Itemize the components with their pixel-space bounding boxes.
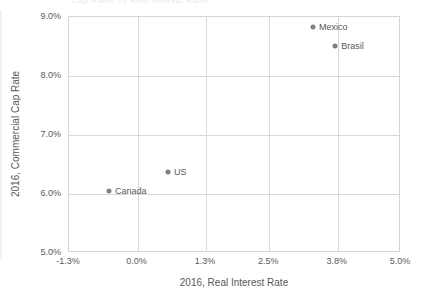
plot-area: MexicoBrasilUSCanada (68, 16, 400, 252)
scatter-chart: Cap Rates vs Real Interest Rates 2016, C… (0, 0, 427, 299)
x-tick-label: 2.5% (258, 256, 279, 267)
y-tick-label: 8.0% (40, 70, 61, 80)
x-tick-label: 1.3% (195, 256, 216, 267)
data-point-label-mexico: Mexico (319, 22, 348, 33)
y-tick-label: 6.0% (40, 188, 61, 198)
x-tick-label: 0.0% (126, 256, 147, 267)
gridline-vertical (138, 17, 139, 251)
data-point-us[interactable] (166, 170, 171, 175)
clipped-chart-title: Cap Rates vs Real Interest Rates (72, 0, 282, 5)
gridline-vertical (206, 17, 207, 251)
x-tick-label: -1.3% (56, 256, 80, 267)
x-tick-label: 5.0% (390, 256, 411, 267)
left-edge-artifact (0, 10, 2, 260)
y-axis-title: 2016, Commercial Cap Rate (9, 16, 23, 252)
x-axis-title: 2016, Real Interest Rate (68, 277, 400, 289)
data-point-label-brasil: Brasil (341, 40, 364, 51)
gridline-horizontal (69, 76, 399, 77)
data-point-canada[interactable] (107, 189, 112, 194)
gridline-horizontal (69, 135, 399, 136)
x-tick-label: 3.8% (326, 256, 347, 267)
data-point-label-canada: Canada (115, 186, 147, 197)
data-point-brasil[interactable] (333, 43, 338, 48)
gridline-vertical (338, 17, 339, 251)
gridline-vertical (269, 17, 270, 251)
data-point-mexico[interactable] (310, 25, 315, 30)
data-point-label-us: US (174, 167, 187, 178)
y-tick-label: 9.0% (40, 11, 61, 21)
y-tick-label: 7.0% (40, 129, 61, 139)
